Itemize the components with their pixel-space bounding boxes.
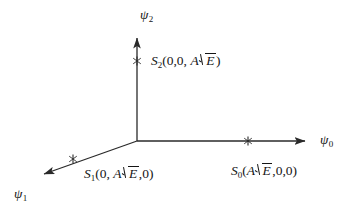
point-coord-prefix-s1: (0, xyxy=(95,166,113,181)
axis-subscript-psi2: 2 xyxy=(149,14,154,24)
point-energy-s1: E xyxy=(128,166,139,181)
point-coord-prefix-s2: (0,0, xyxy=(162,53,190,68)
point-label-s1: S1(0, AE,0) xyxy=(84,165,153,183)
axis-symbol-psi1: ψ xyxy=(14,186,22,201)
point-symbol-s1: S xyxy=(84,166,91,181)
point-amplitude-s2: A xyxy=(190,53,198,68)
signal-space-diagram: ψ2 ψ0 ψ1 S2(0,0, AE) S1(0, AE,0) S0(AE,0… xyxy=(0,0,349,211)
point-energy-s0: E xyxy=(262,163,273,178)
point-energy-s2: E xyxy=(205,53,216,68)
sqrt-icon-s0: E xyxy=(255,162,272,178)
point-symbol-s0: S xyxy=(231,163,238,178)
sqrt-icon-s1: E xyxy=(122,165,139,181)
axis-label-psi2: ψ2 xyxy=(140,8,153,24)
sqrt-icon-s2: E xyxy=(199,52,216,68)
axis-label-psi1: ψ1 xyxy=(14,187,27,203)
point-label-s0: S0(AE,0,0) xyxy=(231,162,297,180)
point-symbol-s2: S xyxy=(151,53,158,68)
point-coord-suffix-s2: ) xyxy=(216,53,221,68)
axis-symbol-psi2: ψ xyxy=(140,7,148,22)
axis-subscript-psi1: 1 xyxy=(23,193,28,203)
point-coord-suffix-s0: ,0,0) xyxy=(272,163,297,178)
axis-subscript-psi0: 0 xyxy=(329,139,334,149)
point-marker-s2 xyxy=(133,57,141,66)
point-amplitude-s1: A xyxy=(113,166,121,181)
point-label-s2: S2(0,0, AE) xyxy=(151,52,220,70)
point-coord-suffix-s1: ,0) xyxy=(139,166,154,181)
axis-label-psi0: ψ0 xyxy=(320,133,333,149)
axis-symbol-psi0: ψ xyxy=(320,132,328,147)
